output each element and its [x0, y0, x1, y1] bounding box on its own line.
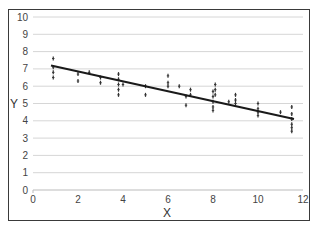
y-tick-label: 7 [22, 63, 28, 74]
y-tick-label: 8 [22, 46, 28, 57]
x-tick-label: 4 [120, 194, 126, 205]
x-tick-label: 0 [30, 194, 36, 205]
trend-line [51, 65, 294, 119]
scatter-chart: 012345678910 024681012 X Y [0, 0, 319, 229]
data-points [52, 57, 293, 134]
x-tick-labels: 024681012 [30, 194, 309, 205]
y-tick-label: 9 [22, 29, 28, 40]
y-tick-label: 6 [22, 81, 28, 92]
x-tick-label: 8 [210, 194, 216, 205]
y-tick-label: 1 [22, 167, 28, 178]
y-tick-labels: 012345678910 [17, 12, 29, 196]
y-tick-label: 5 [22, 98, 28, 109]
y-tick-label: 3 [22, 133, 28, 144]
x-tick-label: 12 [297, 194, 309, 205]
gridlines [33, 17, 303, 193]
y-axis-label: Y [10, 97, 18, 111]
y-tick-label: 2 [22, 150, 28, 161]
x-tick-label: 10 [252, 194, 264, 205]
x-axis-label: X [163, 206, 171, 220]
x-tick-label: 2 [75, 194, 81, 205]
y-tick-label: 0 [22, 185, 28, 196]
x-tick-label: 6 [165, 194, 171, 205]
y-tick-label: 4 [22, 115, 28, 126]
y-tick-label: 10 [17, 12, 29, 23]
